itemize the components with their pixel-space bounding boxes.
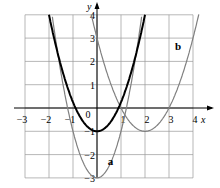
x-tick-label: −3: [17, 114, 28, 125]
y-tick-label: 1: [90, 80, 95, 91]
x-tick-label: 3: [169, 114, 174, 125]
y-tick-label: 2: [90, 56, 95, 67]
x-tick-label: 2: [145, 114, 150, 125]
y-tick-label: −3: [84, 173, 95, 184]
label-a: a: [108, 155, 114, 167]
y-axis-label: y: [86, 1, 92, 12]
origin-label: 0: [86, 109, 91, 120]
label-b: b: [175, 40, 181, 52]
x-tick-label: −2: [41, 114, 52, 125]
y-axis-arrow-icon: [95, 2, 100, 9]
y-tick-label: 3: [90, 33, 95, 44]
parabola-chart: −3−2−101234−3−2−11234xyab: [0, 0, 220, 188]
x-axis-label: x: [200, 114, 206, 125]
x-axis-arrow-icon: [207, 106, 214, 111]
y-tick-label: −2: [84, 150, 95, 161]
x-tick-label: 4: [193, 114, 198, 125]
